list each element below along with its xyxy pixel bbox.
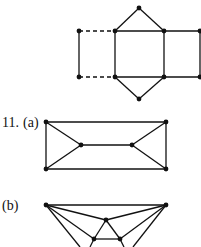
vertex xyxy=(92,237,97,242)
graph-a xyxy=(44,120,169,172)
vertex xyxy=(113,29,118,34)
problem-number-label: 11. xyxy=(2,115,19,130)
vertex xyxy=(137,6,142,11)
vertex xyxy=(137,97,142,102)
vertex xyxy=(44,167,49,172)
part-a-label: (a) xyxy=(23,115,39,131)
edge xyxy=(94,220,106,239)
edge xyxy=(115,8,139,31)
vertex xyxy=(44,203,49,208)
graph-b xyxy=(44,203,169,247)
vertex xyxy=(198,29,201,34)
top-graph xyxy=(77,6,201,102)
edge xyxy=(106,205,166,220)
vertex xyxy=(130,143,135,148)
vertex xyxy=(164,203,169,208)
edge xyxy=(46,122,81,145)
edge xyxy=(115,77,139,99)
edge xyxy=(106,220,120,239)
vertex xyxy=(164,167,169,172)
graph-figure: 11. (a) (b) xyxy=(0,0,201,247)
vertex xyxy=(104,218,109,223)
vertex xyxy=(118,237,123,242)
edge xyxy=(139,8,164,31)
part-b-label: (b) xyxy=(2,198,19,214)
edge xyxy=(139,77,164,99)
vertex xyxy=(162,29,167,34)
edge xyxy=(132,145,166,169)
edge xyxy=(46,205,106,220)
edge xyxy=(46,145,81,169)
vertex xyxy=(77,75,82,80)
vertex xyxy=(164,120,169,125)
vertex xyxy=(77,29,82,34)
vertex xyxy=(198,75,201,80)
vertex xyxy=(113,75,118,80)
edge xyxy=(132,122,166,145)
vertex xyxy=(162,75,167,80)
vertex xyxy=(44,120,49,125)
vertex xyxy=(79,143,84,148)
